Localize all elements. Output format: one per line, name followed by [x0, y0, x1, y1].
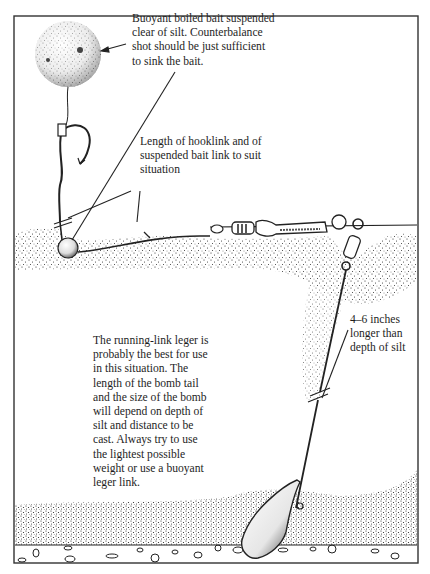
- hook: [58, 124, 90, 222]
- leger-tube: [256, 220, 327, 236]
- bead: [332, 215, 346, 229]
- bait-annotation: Buoyant boiled bait suspended clear of s…: [132, 12, 342, 69]
- counterbalance-shot: [58, 238, 78, 258]
- break-mark: [54, 218, 72, 228]
- bomb-tail-annotation: 4–6 inches longer than depth of silt: [350, 313, 430, 356]
- main-note: The running-link leger is probably the b…: [93, 334, 273, 490]
- swivel: [211, 222, 254, 234]
- bait-link: [66, 87, 68, 125]
- buoyant-boilie: [35, 21, 101, 87]
- hooklink-annotation: Length of hooklink and of suspended bait…: [140, 135, 320, 178]
